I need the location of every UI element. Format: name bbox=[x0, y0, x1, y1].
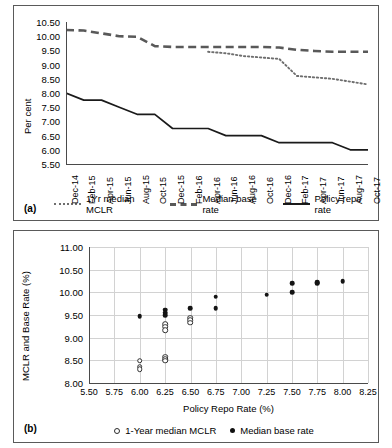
panel-b-gridline-h bbox=[89, 247, 368, 248]
legend-label-mclr-scatter: 1-Year median MCLR bbox=[125, 425, 216, 436]
panel-b-y-tick: 9.00 bbox=[65, 332, 84, 343]
panel-a-y-tick: 9.50 bbox=[42, 45, 61, 56]
panel-b-x-tick: 7.50 bbox=[283, 387, 301, 397]
panel-b-gridline-v bbox=[216, 247, 217, 383]
panel-a-x-tick: Feb-15 bbox=[87, 175, 97, 204]
panel-a-x-tick: Feb-16 bbox=[194, 175, 204, 204]
panel-a-y-tick: 10.00 bbox=[36, 31, 60, 42]
panel-b-x-tick: 5.75 bbox=[106, 387, 124, 397]
panel-a-series-canvas bbox=[66, 22, 368, 164]
panel-b-data-point-mclr bbox=[162, 328, 168, 334]
panel-b-gridline-v bbox=[368, 247, 369, 383]
panel-a-x-tick: Feb-17 bbox=[300, 175, 310, 204]
panel-b-legend: 1-Year median MCLR Median base rate bbox=[74, 425, 354, 436]
panel-b-x-tick: 6.00 bbox=[131, 387, 149, 397]
panel-a-x-tick: Dec-15 bbox=[176, 175, 186, 204]
panel-b-gridline-h bbox=[89, 338, 368, 339]
panel-b-data-point-base-rate bbox=[340, 279, 345, 284]
panel-b-gridline-h bbox=[89, 292, 368, 293]
panel-a-label: (a) bbox=[24, 203, 36, 214]
panel-a-y-tick: 8.50 bbox=[42, 73, 61, 84]
panel-a-x-tick: Apr-17 bbox=[318, 177, 328, 204]
panel-a-x-tick: Dec-14 bbox=[70, 175, 80, 204]
panel-b-x-tick: 6.75 bbox=[207, 387, 225, 397]
panel-b-x-tick: 5.50 bbox=[80, 387, 98, 397]
panel-b-data-point-base-rate bbox=[290, 290, 295, 295]
panel-b-y-axis bbox=[89, 247, 90, 383]
panel-b-data-point-base-rate bbox=[315, 281, 320, 286]
panel-b-x-tick: 8.00 bbox=[334, 387, 352, 397]
panel-a-x-tick: Jun-16 bbox=[229, 176, 239, 204]
panel-a-x-axis bbox=[66, 164, 368, 165]
panel-b-gridline-v bbox=[114, 247, 115, 383]
panel-a-x-tick: Oct-16 bbox=[265, 177, 275, 204]
panel-b-x-tick: 7.25 bbox=[258, 387, 276, 397]
legend-item-mclr-scatter: 1-Year median MCLR bbox=[114, 425, 216, 436]
panel-a-y-tick: 8.00 bbox=[42, 88, 61, 99]
panel-a-y-tick: 9.00 bbox=[42, 59, 61, 70]
panel-b-data-point-mclr bbox=[137, 367, 143, 373]
panel-b-data-point-base-rate bbox=[290, 281, 295, 286]
panel-b-y-tick: 9.50 bbox=[65, 310, 84, 321]
panel-a-y-tick: 6.00 bbox=[42, 144, 61, 155]
panel-b-data-point-base-rate bbox=[137, 314, 142, 319]
panel-a-series-line-1 bbox=[66, 30, 368, 52]
legend-label-base-rate-scatter: Median base rate bbox=[240, 425, 313, 436]
panel-a-series-line-2 bbox=[66, 93, 368, 150]
panel-a-x-tick: Apr-15 bbox=[105, 177, 115, 204]
panel-b-x-tick: 6.50 bbox=[182, 387, 200, 397]
panel-b-y-tick: 10.00 bbox=[59, 287, 83, 298]
open-circle-icon bbox=[114, 428, 120, 434]
panel-a-x-tick: Jun-17 bbox=[336, 176, 346, 204]
panel-a-y-tick: 5.50 bbox=[42, 159, 61, 170]
panel-b-data-point-mclr bbox=[162, 358, 168, 364]
panel-a-y-tick: 7.50 bbox=[42, 102, 61, 113]
panel-b-y-tick: 10.50 bbox=[59, 264, 83, 275]
figure-root: (a) Per cent 1Yr median MCLR Median base… bbox=[0, 0, 392, 448]
chart-panel-b: (b) MCLR and Base Rate (%) Policy Repo R… bbox=[13, 230, 379, 443]
panel-b-gridline-h bbox=[89, 270, 368, 271]
panel-a-y-axis bbox=[66, 22, 67, 164]
panel-b-y-tick: 8.50 bbox=[65, 355, 84, 366]
panel-a-y-axis-title: Per cent bbox=[22, 99, 33, 134]
panel-a-series-line-0 bbox=[208, 52, 368, 85]
panel-a-x-tick: Dec-16 bbox=[283, 175, 293, 204]
legend-item-base-rate-scatter: Median base rate bbox=[230, 425, 313, 436]
panel-b-gridline-h bbox=[89, 360, 368, 361]
panel-b-y-axis-title: MCLR and Base Rate (%) bbox=[20, 271, 31, 381]
panel-b-x-tick: 8.25 bbox=[359, 387, 377, 397]
panel-a-x-tick: Jun-15 bbox=[123, 176, 133, 204]
panel-a-x-tick: Aug-17 bbox=[354, 175, 364, 204]
panel-b-data-point-base-rate bbox=[214, 306, 219, 311]
panel-b-data-point-mclr bbox=[137, 358, 143, 364]
filled-circle-icon bbox=[230, 428, 235, 433]
panel-a-x-tick: Oct-17 bbox=[372, 177, 382, 204]
panel-a-x-tick: Aug-15 bbox=[141, 175, 151, 204]
panel-b-gridline-v bbox=[317, 247, 318, 383]
panel-b-gridline-v bbox=[343, 247, 344, 383]
panel-b-x-tick: 6.25 bbox=[156, 387, 174, 397]
panel-b-data-point-base-rate bbox=[188, 306, 193, 311]
chart-panel-a: (a) Per cent 1Yr median MCLR Median base… bbox=[13, 5, 379, 221]
panel-b-gridline-v bbox=[267, 247, 268, 383]
panel-b-data-point-base-rate bbox=[264, 292, 269, 297]
panel-a-y-tick: 7.00 bbox=[42, 116, 61, 127]
panel-a-y-tick: 10.50 bbox=[36, 17, 60, 28]
panel-b-gridline-v bbox=[241, 247, 242, 383]
panel-a-x-tick: Oct-15 bbox=[158, 177, 168, 204]
panel-b-data-point-mclr bbox=[188, 320, 194, 326]
panel-b-x-axis-title: Policy Repo Rate (%) bbox=[89, 403, 368, 414]
panel-b-x-tick: 7.75 bbox=[309, 387, 327, 397]
panel-a-x-tick: Aug-16 bbox=[247, 175, 257, 204]
panel-b-plot-area bbox=[89, 247, 368, 383]
panel-b-gridline-h bbox=[89, 315, 368, 316]
panel-b-label: (b) bbox=[24, 423, 37, 434]
panel-b-data-point-base-rate bbox=[214, 295, 219, 300]
panel-b-x-tick: 7.00 bbox=[232, 387, 250, 397]
panel-b-gridline-v bbox=[292, 247, 293, 383]
panel-a-y-tick: 6.50 bbox=[42, 130, 61, 141]
panel-a-x-tick: Apr-16 bbox=[212, 177, 222, 204]
panel-b-y-tick: 11.00 bbox=[60, 242, 83, 253]
panel-b-data-point-base-rate bbox=[163, 313, 168, 318]
panel-b-x-axis bbox=[89, 383, 368, 384]
